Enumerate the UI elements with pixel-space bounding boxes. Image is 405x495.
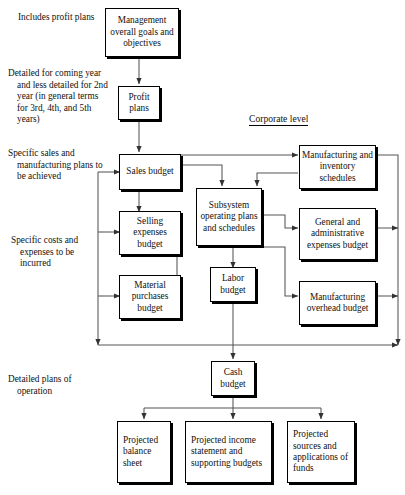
node-general-administrative-expenses-budget[interactable]: General and administrative expenses budg… xyxy=(299,208,376,260)
node-material-purchases-budget-label: Material purchases budget xyxy=(120,280,180,314)
note-detailed-timeframe: Detailed for coming year and less detail… xyxy=(8,68,111,126)
note-profit-plans: Includes profit plans xyxy=(18,12,109,24)
node-profit-plans-label: Profit plans xyxy=(119,92,159,115)
node-sales-budget[interactable]: Sales budget xyxy=(119,154,181,190)
node-projected-balance-sheet-label: Projected balance sheet xyxy=(118,435,170,469)
node-manufacturing-overhead-budget-label: Manufacturing overhead budget xyxy=(300,292,375,315)
budget-flowchart-diagram: Management overall goals and objectives … xyxy=(0,0,405,495)
node-manufacturing-inventory-schedules-label: Manufacturing and inventory schedules xyxy=(300,150,375,184)
note-detailed-plans-operation: Detailed plans of operation xyxy=(8,374,105,397)
corporate-level-label: Corporate level xyxy=(249,113,308,126)
node-labor-budget[interactable]: Labor budget xyxy=(210,267,256,302)
node-labor-budget-label: Labor budget xyxy=(211,273,255,296)
node-projected-balance-sheet[interactable]: Projected balance sheet xyxy=(117,421,171,483)
note-costs-expenses: Specific costs and expenses to be incurr… xyxy=(11,235,104,270)
node-general-administrative-expenses-budget-label: General and administrative expenses budg… xyxy=(300,217,375,251)
node-projected-sources-applications[interactable]: Projected sources and applications of fu… xyxy=(287,421,355,483)
node-selling-expenses-budget[interactable]: Selling expenses budget xyxy=(119,211,181,255)
node-subsystem-operating-plans[interactable]: Subsystem operating plans and schedules xyxy=(196,188,262,246)
node-projected-sources-applications-label: Projected sources and applications of fu… xyxy=(288,429,354,475)
node-subsystem-operating-plans-label: Subsystem operating plans and schedules xyxy=(197,200,261,234)
node-profit-plans[interactable]: Profit plans xyxy=(118,86,160,120)
node-manufacturing-inventory-schedules[interactable]: Manufacturing and inventory schedules xyxy=(299,145,376,189)
node-management[interactable]: Management overall goals and objectives xyxy=(105,8,179,57)
node-cash-budget[interactable]: Cash budget xyxy=(211,361,255,396)
node-manufacturing-overhead-budget[interactable]: Manufacturing overhead budget xyxy=(299,281,376,325)
node-selling-expenses-budget-label: Selling expenses budget xyxy=(120,216,180,250)
node-projected-income-statement[interactable]: Projected income statement and supportin… xyxy=(185,421,272,483)
node-sales-budget-label: Sales budget xyxy=(124,166,175,177)
node-management-label: Management overall goals and objectives xyxy=(106,15,178,49)
node-cash-budget-label: Cash budget xyxy=(212,367,254,390)
node-material-purchases-budget[interactable]: Material purchases budget xyxy=(119,275,181,319)
note-sales-manufacturing-plans: Specific sales and manufacturing plans t… xyxy=(8,148,105,183)
node-projected-income-statement-label: Projected income statement and supportin… xyxy=(186,435,271,469)
